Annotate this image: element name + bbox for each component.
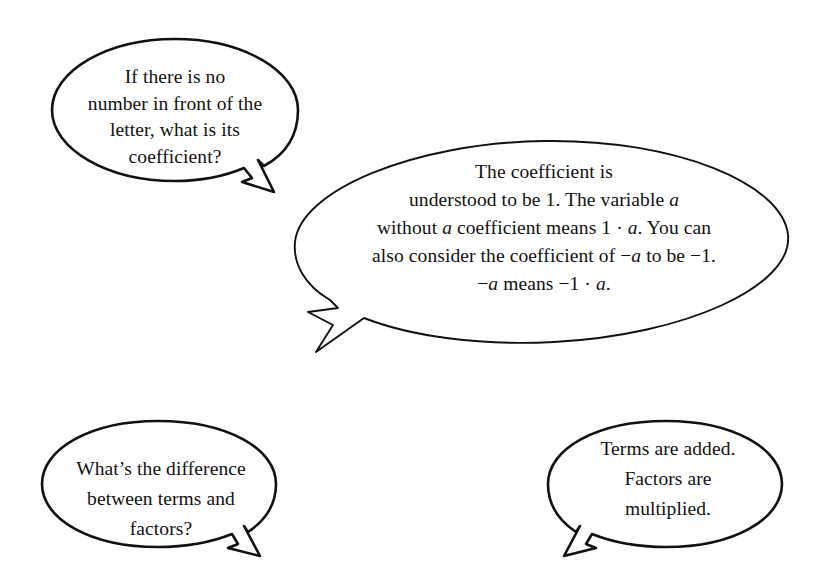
speech-bubble-answer-coefficient[interactable]: The coefficient isunderstood to be 1. Th… [286,130,802,368]
speech-bubble-layer: If there is nonumber in front of thelett… [0,0,825,587]
speech-bubble-answer-terms-factors[interactable]: Terms are added.Factors aremultiplied. [530,410,792,566]
speech-bubble-question-coefficient[interactable]: If there is nonumber in front of thelett… [30,26,320,206]
speech-bubble-text-answer-coefficient: The coefficient isunderstood to be 1. Th… [322,158,766,298]
speech-bubble-text-answer-terms-factors: Terms are added.Factors aremultiplied. [562,434,774,524]
page-canvas: If there is nonumber in front of thelett… [0,0,825,587]
speech-bubble-text-question-terms-factors: What’s the differencebetween terms andfa… [50,454,272,544]
speech-bubble-question-terms-factors[interactable]: What’s the differencebetween terms andfa… [32,410,294,566]
speech-bubble-text-question-coefficient: If there is nonumber in front of thelett… [56,64,294,170]
